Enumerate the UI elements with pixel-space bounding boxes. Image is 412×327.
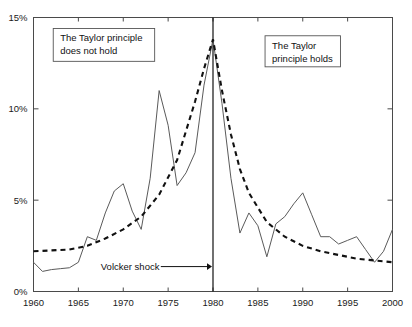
taylor-principle-holds-line-1: The Taylor — [272, 40, 316, 51]
x-tick-label-1965: 1965 — [68, 297, 89, 308]
x-tick-label-1990: 1990 — [292, 297, 313, 308]
x-tick-label-1960: 1960 — [23, 297, 44, 308]
x-tick-label-2000: 2000 — [382, 297, 403, 308]
chart-figure: 0%5%10%15%196019651970197519801985199019… — [0, 0, 412, 327]
y-tick-label-0%: 0% — [14, 286, 28, 297]
x-tick-label-1970: 1970 — [113, 297, 134, 308]
y-tick-label-15%: 15% — [8, 12, 28, 23]
x-tick-label-1995: 1995 — [337, 297, 358, 308]
taylor-principle-inflation-chart: 0%5%10%15%196019651970197519801985199019… — [0, 0, 412, 327]
y-tick-label-5%: 5% — [14, 195, 28, 206]
x-tick-label-1975: 1975 — [158, 297, 179, 308]
taylor-principle-does-not-hold-line-2: does not hold — [60, 45, 117, 56]
x-tick-label-1985: 1985 — [247, 297, 268, 308]
x-tick-label-1980: 1980 — [202, 297, 223, 308]
taylor-principle-holds-line-2: principle holds — [272, 53, 333, 64]
volcker-shock-callout-text: Volcker shock — [101, 261, 160, 272]
taylor-principle-does-not-hold-line-1: The Taylor principle — [60, 32, 142, 43]
y-tick-label-10%: 10% — [8, 103, 28, 114]
